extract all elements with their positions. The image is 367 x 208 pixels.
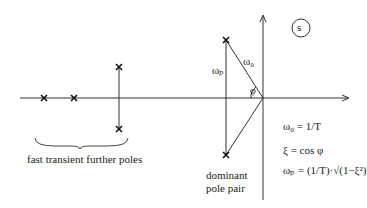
equation-omegap: ωₚ = (1/T)·√(1−ξ²): [283, 164, 366, 177]
omega0-label: ω₀: [243, 55, 254, 67]
dominant-label-line2: pole pair: [206, 182, 245, 194]
phi-label: φ: [250, 85, 256, 96]
dominant-label-line1: dominant: [206, 169, 248, 181]
omega0-line-upper: [226, 40, 263, 98]
s-plane-label: s: [297, 21, 301, 33]
real-axis: [20, 95, 349, 101]
imaginary-axis: [260, 15, 266, 200]
curly-brace: [35, 138, 128, 149]
equation-xi: ξ = cos φ: [283, 144, 323, 156]
further-poles-label: fast transient further poles: [27, 153, 142, 165]
omega0-line-lower: [226, 98, 263, 155]
s-plane-diagram: s ω₀ ωₚ φ fast transient further poles d…: [0, 0, 367, 208]
omegap-label: ωₚ: [212, 64, 224, 77]
equation-omega0: ω₀ = 1/T: [283, 120, 321, 132]
